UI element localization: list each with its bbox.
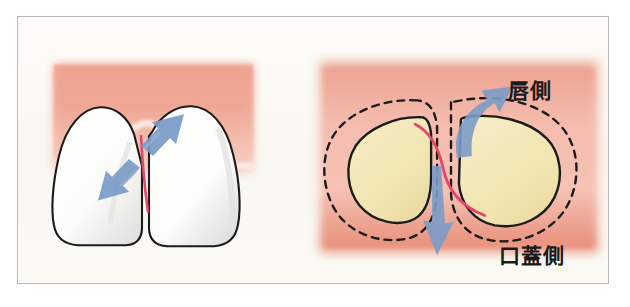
label-labial-side: 唇側: [508, 81, 552, 102]
label-palatal-side: 口蓋側: [499, 246, 565, 267]
illustration-frame: 唇側 口蓋側: [17, 16, 609, 284]
figure-root: 唇側 口蓋側: [0, 0, 630, 307]
panel-frontal-view: [18, 17, 290, 283]
frontal-view-drawing: [18, 17, 290, 283]
